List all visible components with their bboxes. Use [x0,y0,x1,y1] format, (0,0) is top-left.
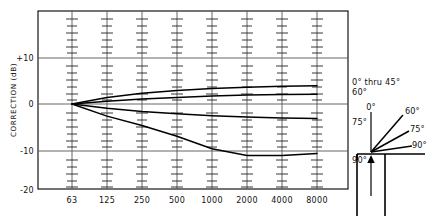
x-tick-2000: 2000 [236,196,258,205]
legend-label-0-thru-45: 0° thru 45° [352,77,400,87]
chart-figure: +10 0 -10 -20 CORRECTION (dB) 63 125 250… [0,0,432,223]
x-tick-1000: 1000 [201,196,223,205]
inset-label-90deg: 90° [412,140,427,150]
legend-label-75: 75° [352,117,367,127]
x-tick-63: 63 [67,196,78,205]
x-tick-4000: 4000 [271,196,293,205]
chart-canvas: +10 0 -10 -20 CORRECTION (dB) 63 125 250… [0,0,432,223]
legend-label-60: 60° [352,87,367,97]
inset-label-0deg: 0° [366,102,375,112]
inset-label-60deg: 60° [405,106,420,116]
inset-label-75deg: 75° [410,124,425,134]
x-tick-125: 125 [99,196,115,205]
y-tick-zero: 0 [29,100,34,109]
y-axis-title: CORRECTION (dB) [9,63,18,137]
x-tick-250: 250 [134,196,150,205]
x-tick-500: 500 [169,196,185,205]
y-tick-minus10: -10 [20,147,34,156]
y-tick-plus10: +10 [16,54,34,63]
y-tick-minus20: -20 [20,186,34,195]
legend-label-90: 90° [352,155,367,165]
x-tick-8000: 8000 [306,196,328,205]
